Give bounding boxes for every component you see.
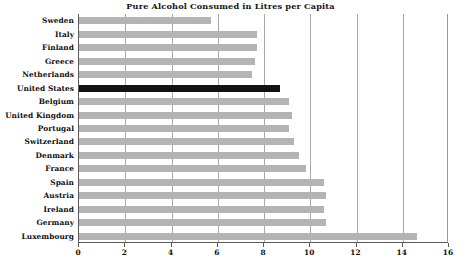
x-tick-label-10: 10 xyxy=(299,248,319,257)
category-label-switzerland: Switzerland xyxy=(0,137,74,146)
category-label-italy: Italy xyxy=(0,30,74,39)
bar-germany[interactable] xyxy=(79,219,326,226)
bar-united-kingdom[interactable] xyxy=(79,112,292,119)
bar-row[interactable] xyxy=(79,108,447,121)
category-label-germany: Germany xyxy=(0,218,74,227)
category-label-spain: Spain xyxy=(0,178,74,187)
bar-row[interactable] xyxy=(79,27,447,40)
category-label-austria: Austria xyxy=(0,191,74,200)
x-tick-mark xyxy=(402,243,403,247)
bar-portugal[interactable] xyxy=(79,125,289,132)
bar-denmark[interactable] xyxy=(79,152,299,159)
x-tick-mark xyxy=(263,243,264,247)
bar-ireland[interactable] xyxy=(79,206,324,213)
bar-luxembourg[interactable] xyxy=(79,233,417,240)
category-label-greece: Greece xyxy=(0,57,74,66)
category-label-denmark: Denmark xyxy=(0,151,74,160)
x-tick-mark xyxy=(217,243,218,247)
bar-chart: Pure Alcohol Consumed in Litres per Capi… xyxy=(0,0,461,262)
x-tick-label-8: 8 xyxy=(253,248,273,257)
bar-finland[interactable] xyxy=(79,44,257,51)
bar-switzerland[interactable] xyxy=(79,138,294,145)
chart-title: Pure Alcohol Consumed in Litres per Capi… xyxy=(0,1,461,11)
x-tick-mark xyxy=(309,243,310,247)
bar-row[interactable] xyxy=(79,216,447,229)
bar-france[interactable] xyxy=(79,165,306,172)
bar-row[interactable] xyxy=(79,230,447,243)
bar-row[interactable] xyxy=(79,68,447,81)
bar-row[interactable] xyxy=(79,14,447,27)
x-tick-mark xyxy=(124,243,125,247)
x-tick-label-2: 2 xyxy=(114,248,134,257)
category-label-luxembourg: Luxembourg xyxy=(0,232,74,241)
category-label-portugal: Portugal xyxy=(0,124,74,133)
bar-row[interactable] xyxy=(79,81,447,94)
bar-spain[interactable] xyxy=(79,179,324,186)
x-tick-label-14: 14 xyxy=(392,248,412,257)
bar-row[interactable] xyxy=(79,189,447,202)
x-tick-label-6: 6 xyxy=(207,248,227,257)
category-label-ireland: Ireland xyxy=(0,205,74,214)
bar-sweden[interactable] xyxy=(79,17,211,24)
category-label-sweden: Sweden xyxy=(0,16,74,25)
bar-row[interactable] xyxy=(79,122,447,135)
bar-row[interactable] xyxy=(79,176,447,189)
category-label-netherlands: Netherlands xyxy=(0,70,74,79)
category-label-united-states: United States xyxy=(0,84,74,93)
x-tick-mark xyxy=(356,243,357,247)
x-tick-mark xyxy=(78,243,79,247)
category-axis: SwedenItalyFinlandGreeceNetherlandsUnite… xyxy=(0,14,76,243)
bar-belgium[interactable] xyxy=(79,98,289,105)
x-tick-label-4: 4 xyxy=(161,248,181,257)
bar-row[interactable] xyxy=(79,135,447,148)
bar-row[interactable] xyxy=(79,54,447,67)
bar-greece[interactable] xyxy=(79,58,255,65)
bar-italy[interactable] xyxy=(79,31,257,38)
bar-row[interactable] xyxy=(79,149,447,162)
category-label-finland: Finland xyxy=(0,43,74,52)
bar-netherlands[interactable] xyxy=(79,71,252,78)
category-label-france: France xyxy=(0,164,74,173)
category-label-belgium: Belgium xyxy=(0,97,74,106)
x-tick-mark xyxy=(171,243,172,247)
x-tick-mark xyxy=(448,243,449,247)
bars-layer xyxy=(79,14,447,242)
bar-row[interactable] xyxy=(79,41,447,54)
x-tick-label-0: 0 xyxy=(68,248,88,257)
x-tick-label-12: 12 xyxy=(346,248,366,257)
bar-row[interactable] xyxy=(79,162,447,175)
x-axis: 0246810121416 xyxy=(78,243,449,262)
plot-area xyxy=(78,14,448,243)
x-tick-label-16: 16 xyxy=(438,248,458,257)
category-label-united-kingdom: United Kingdom xyxy=(0,111,74,120)
bar-row[interactable] xyxy=(79,95,447,108)
bar-austria[interactable] xyxy=(79,192,326,199)
bar-united-states[interactable] xyxy=(79,85,280,92)
bar-row[interactable] xyxy=(79,203,447,216)
